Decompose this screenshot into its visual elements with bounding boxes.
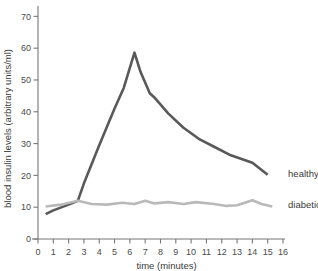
series-label-healthy: healthy xyxy=(288,168,318,179)
x-tick-label: 10 xyxy=(186,247,196,257)
y-axis-title: blood insulin levels (arbitrary units/ml… xyxy=(2,49,13,208)
x-tick-label: 3 xyxy=(81,247,86,257)
series-label-diabetic: diabetic xyxy=(288,199,318,210)
x-tick-label: 12 xyxy=(217,247,227,257)
x-tick-label: 1 xyxy=(51,247,56,257)
x-tick-label: 0 xyxy=(35,247,40,257)
y-tick-label: 30 xyxy=(21,139,31,149)
chart-canvas: 010203040506070012345678910111213141516h… xyxy=(0,0,318,271)
x-tick-label: 2 xyxy=(66,247,71,257)
y-tick-label: 50 xyxy=(21,75,31,85)
y-tick-label: 0 xyxy=(26,234,31,244)
x-tick-label: 4 xyxy=(97,247,102,257)
y-tick-label: 20 xyxy=(21,171,31,181)
y-tick-label: 60 xyxy=(21,43,31,53)
x-tick-label: 8 xyxy=(158,247,163,257)
x-tick-label: 9 xyxy=(173,247,178,257)
insulin-line-chart: 010203040506070012345678910111213141516h… xyxy=(0,0,318,271)
y-tick-label: 10 xyxy=(21,202,31,212)
series-line-diabetic xyxy=(46,200,273,206)
x-tick-label: 11 xyxy=(202,247,211,257)
series-line-healthy xyxy=(46,53,268,215)
x-tick-label: 6 xyxy=(127,247,132,257)
x-tick-label: 5 xyxy=(112,247,117,257)
x-tick-label: 14 xyxy=(247,247,257,257)
x-tick-label: 15 xyxy=(263,247,273,257)
x-tick-label: 7 xyxy=(143,247,148,257)
y-tick-label: 40 xyxy=(21,107,31,117)
x-axis-title: time (minutes) xyxy=(136,260,196,271)
x-tick-label: 16 xyxy=(278,247,288,257)
x-tick-label: 13 xyxy=(232,247,242,257)
y-tick-label: 70 xyxy=(21,12,31,22)
